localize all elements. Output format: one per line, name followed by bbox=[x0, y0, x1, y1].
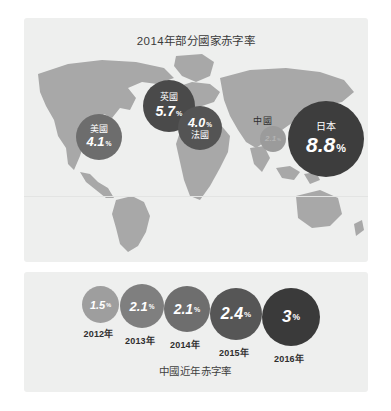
bubble-usa: 美國 4.1% bbox=[76, 114, 122, 160]
percent-sign: % bbox=[336, 142, 346, 154]
deficit-map-panel: 2014年部分國家赤字率 bbox=[24, 18, 368, 262]
bubble-usa-label: 美國 bbox=[90, 125, 109, 134]
trend-bubble-2015年: 2.4% bbox=[210, 288, 262, 340]
trend-bubble-value: 2.1 bbox=[174, 301, 193, 317]
bubble-japan: 日本 8.8% bbox=[288, 101, 364, 177]
percent-sign: % bbox=[206, 121, 212, 128]
trend-bubble-value: 1.5 bbox=[90, 299, 105, 311]
trend-bubble-2014年: 2.1% bbox=[164, 286, 210, 332]
percent-sign: % bbox=[149, 303, 155, 310]
bubble-usa-value: 4.1% bbox=[86, 135, 111, 149]
trend-bubble-2013年: 2.1% bbox=[120, 284, 164, 328]
bubble-japan-value: 8.8% bbox=[306, 134, 346, 156]
percent-sign: % bbox=[292, 312, 300, 322]
bubble-uk-value: 5.7% bbox=[156, 104, 183, 119]
trend-panel-caption: 中國近年赤字率 bbox=[0, 363, 391, 378]
trend-label-2013年: 2013年 bbox=[125, 334, 155, 347]
percent-sign: % bbox=[106, 302, 111, 308]
bubble-uk-label: 英國 bbox=[160, 93, 179, 102]
bubble-japan-label: 日本 bbox=[316, 122, 337, 133]
trend-label-2015年: 2015年 bbox=[219, 346, 249, 359]
trend-bubble-value: 2.4 bbox=[221, 305, 243, 323]
bubble-china: 2.1% bbox=[260, 126, 286, 152]
bubble-france-label: 法國 bbox=[191, 131, 210, 140]
percent-sign: % bbox=[194, 306, 200, 313]
trend-bubble-value: 3 bbox=[282, 307, 291, 327]
trend-label-2012年: 2012年 bbox=[84, 327, 114, 340]
percent-sign: % bbox=[244, 310, 251, 319]
trend-bubble-value: 2.1 bbox=[130, 299, 148, 314]
equator-line bbox=[24, 196, 368, 197]
trend-bubble-2012年: 1.5% bbox=[82, 286, 119, 323]
trend-label-2014年: 2014年 bbox=[170, 338, 200, 351]
percent-sign: % bbox=[277, 137, 281, 142]
bubble-france: 4.0% 法國 bbox=[178, 106, 222, 150]
bubble-china-label: 中國 bbox=[253, 114, 272, 127]
percent-sign: % bbox=[106, 140, 112, 147]
trend-bubble-2016年: 3% bbox=[262, 288, 320, 346]
map-panel-title: 2014年部分國家赤字率 bbox=[24, 32, 368, 48]
bubble-china-value: 2.1% bbox=[265, 135, 281, 143]
bubble-france-value: 4.0% bbox=[188, 117, 212, 130]
